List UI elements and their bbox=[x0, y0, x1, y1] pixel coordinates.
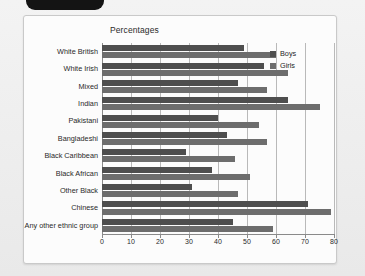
bar-girls-black-african bbox=[102, 174, 250, 180]
y-axis-label-white-irish: White Irish bbox=[24, 64, 98, 73]
legend-item-girls[interactable]: Girls bbox=[270, 61, 330, 70]
x-tick-label-40: 40 bbox=[214, 238, 222, 245]
y-axis-label-bangladeshi: Bangladeshi bbox=[24, 134, 98, 143]
y-axis-label-other-black: Other Black bbox=[24, 186, 98, 195]
bar-boys-any-other-ethnic-group bbox=[102, 219, 233, 225]
bar-girls-pakistani bbox=[102, 122, 259, 128]
bar-girls-chinese bbox=[102, 209, 331, 215]
y-axis-label-chinese: Chinese bbox=[24, 203, 98, 212]
bar-girls-black-caribbean bbox=[102, 156, 235, 162]
bar-boys-bangladeshi bbox=[102, 132, 227, 138]
bar-girls-mixed bbox=[102, 87, 267, 93]
legend-swatch-boys-icon bbox=[270, 51, 276, 57]
x-tick-label-10: 10 bbox=[127, 238, 135, 245]
bar-girls-bangladeshi bbox=[102, 139, 267, 145]
y-axis-label-black-african: Black African bbox=[24, 169, 98, 178]
x-tick-label-20: 20 bbox=[156, 238, 164, 245]
legend-swatch-girls-icon bbox=[270, 63, 276, 69]
bar-girls-white-british bbox=[102, 52, 276, 58]
bar-boys-other-black bbox=[102, 184, 192, 190]
y-axis-label-indian: Indian bbox=[24, 99, 98, 108]
bar-boys-black-caribbean bbox=[102, 149, 186, 155]
bar-boys-white-irish bbox=[102, 63, 264, 69]
bar-girls-indian bbox=[102, 104, 320, 110]
bar-boys-mixed bbox=[102, 80, 238, 86]
page-background: Percentages White BritishWhite IrishMixe… bbox=[0, 0, 365, 276]
bar-boys-black-african bbox=[102, 167, 212, 173]
legend-item-boys[interactable]: Boys bbox=[270, 49, 330, 58]
y-axis-label-white-british: White British bbox=[24, 47, 98, 56]
bar-girls-white-irish bbox=[102, 70, 288, 76]
bar-boys-pakistani bbox=[102, 115, 218, 121]
legend-label-girls: Girls bbox=[280, 61, 295, 70]
x-tick-label-80: 80 bbox=[330, 238, 338, 245]
chart-card: Percentages White BritishWhite IrishMixe… bbox=[23, 15, 337, 264]
x-tick-label-60: 60 bbox=[272, 238, 280, 245]
bar-boys-chinese bbox=[102, 201, 308, 207]
black-tab-decoration bbox=[26, 0, 104, 10]
gridline-80 bbox=[334, 43, 335, 234]
legend-label-boys: Boys bbox=[280, 49, 296, 58]
y-axis-label-any-other-ethnic-group: Any other ethnic group bbox=[24, 221, 98, 230]
x-tick-label-70: 70 bbox=[301, 238, 309, 245]
bar-girls-other-black bbox=[102, 191, 238, 197]
y-axis-label-pakistani: Pakistani bbox=[24, 116, 98, 125]
x-tick-label-0: 0 bbox=[100, 238, 104, 245]
y-axis-label-mixed: Mixed bbox=[24, 82, 98, 91]
x-axis-ticks: 01020304050607080 bbox=[24, 235, 336, 251]
x-tick-label-30: 30 bbox=[185, 238, 193, 245]
chart-legend: Boys Girls bbox=[270, 49, 330, 73]
y-axis-label-black-caribbean: Black Caribbean bbox=[24, 151, 98, 160]
bar-girls-any-other-ethnic-group bbox=[102, 226, 273, 232]
x-tick-label-50: 50 bbox=[243, 238, 251, 245]
chart-title: Percentages bbox=[110, 25, 159, 35]
bar-boys-indian bbox=[102, 97, 288, 103]
bar-boys-white-british bbox=[102, 45, 244, 51]
